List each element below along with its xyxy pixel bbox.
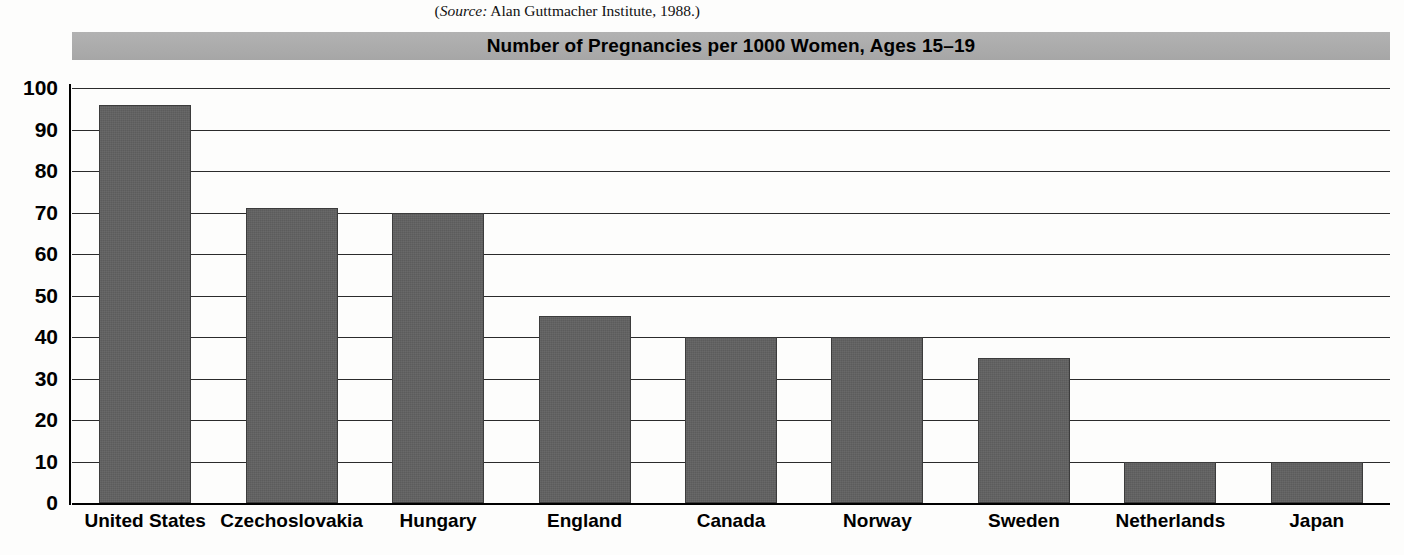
y-tick-label-0: 0 [0,491,58,515]
chart-title-bar: Number of Pregnancies per 1000 Women, Ag… [72,32,1390,60]
x-axis-category-labels: United StatesCzechoslovakiaHungaryEnglan… [72,510,1390,550]
y-tick-label-80: 80 [0,159,58,183]
y-tick-label-60: 60 [0,242,58,266]
bar [392,213,484,504]
bar [1271,462,1363,504]
y-axis-line [69,84,71,505]
bar [539,316,631,503]
category-label: United States [85,510,206,532]
bar [246,208,338,503]
bar [831,337,923,503]
chart-title: Number of Pregnancies per 1000 Women, Ag… [487,35,975,57]
category-label: Sweden [988,510,1060,532]
y-tick-label-40: 40 [0,325,58,349]
y-tick-label-10: 10 [0,450,58,474]
bars-layer [72,88,1390,503]
category-label: Czechoslovakia [220,510,363,532]
y-tick-label-50: 50 [0,284,58,308]
bar [1124,462,1216,504]
category-label: Japan [1289,510,1344,532]
category-label: Canada [697,510,766,532]
y-tick-label-20: 20 [0,408,58,432]
source-label: Source: [440,2,488,19]
y-tick-label-90: 90 [0,118,58,142]
source-caption: (Source: Alan Guttmacher Institute, 1988… [0,2,700,20]
category-label: Hungary [400,510,477,532]
category-label: Norway [843,510,912,532]
bar [978,358,1070,503]
category-label: Netherlands [1115,510,1225,532]
y-tick-label-100: 100 [0,76,58,100]
bar-chart-figure: Number of Pregnancies per 1000 Women, Ag… [0,28,1404,555]
source-text: Alan Guttmacher Institute, 1988.) [487,2,700,19]
category-label: England [547,510,622,532]
y-tick-label-70: 70 [0,201,58,225]
y-tick-label-30: 30 [0,367,58,391]
bar [99,105,191,503]
axis-baseline [72,503,1390,505]
bar [685,337,777,503]
